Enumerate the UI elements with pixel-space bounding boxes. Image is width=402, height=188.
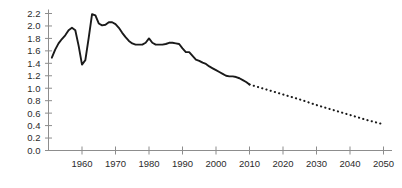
x-tick-label: 1990	[172, 158, 193, 169]
x-tick-label: 2050	[373, 158, 394, 169]
y-tick-label: 1.8	[27, 33, 40, 44]
y-axis: 0.00.20.40.60.81.01.21.41.61.82.02.2	[27, 8, 52, 156]
line-chart: 0.00.20.40.60.81.01.21.41.61.82.02.2 196…	[0, 0, 402, 188]
x-tick-label: 2010	[239, 158, 260, 169]
y-tick-label: 1.0	[27, 83, 40, 94]
x-tick-label: 1980	[138, 158, 159, 169]
y-tick-label: 1.4	[27, 58, 40, 69]
data-series-group	[52, 14, 384, 124]
y-tick-label: 2.0	[27, 20, 40, 31]
projection-line	[250, 84, 384, 124]
y-tick-label: 0.6	[27, 108, 40, 119]
x-tick-label: 2020	[272, 158, 293, 169]
chart-container: 0.00.20.40.60.81.01.21.41.61.82.02.2 196…	[0, 0, 402, 188]
x-tick-label: 1960	[71, 158, 92, 169]
historical-line	[52, 14, 250, 84]
x-tick-label: 1970	[105, 158, 126, 169]
x-tick-label: 2000	[205, 158, 226, 169]
y-tick-label: 0.4	[27, 120, 40, 131]
y-tick-label: 2.2	[27, 8, 40, 19]
y-tick-label: 1.2	[27, 70, 40, 81]
y-tick-label: 0.0	[27, 145, 40, 156]
y-tick-label: 0.2	[27, 132, 40, 143]
y-tick-label: 1.6	[27, 45, 40, 56]
x-tick-label: 2040	[339, 158, 360, 169]
y-tick-label: 0.8	[27, 95, 40, 106]
x-axis: 1960197019801990200020102020203020402050	[49, 147, 395, 169]
x-tick-label: 2030	[306, 158, 327, 169]
